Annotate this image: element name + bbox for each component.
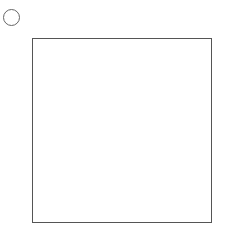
puzzle-grid [32, 38, 212, 223]
puzzle-label [3, 9, 20, 26]
